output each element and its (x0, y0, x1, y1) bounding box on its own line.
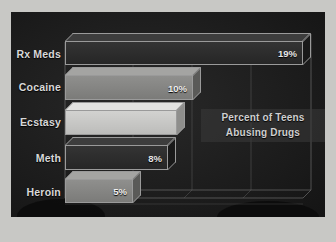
image-frame: Rx Meds Cocaine Ecstasy Meth Heroin 19% … (0, 0, 336, 242)
cat-label-meth: Meth (11, 152, 61, 164)
bar-top-face (65, 137, 176, 145)
bar-cocaine[interactable]: 10% (65, 75, 193, 100)
cat-label-cocaine: Cocaine (11, 81, 61, 93)
plot-area: Rx Meds Cocaine Ecstasy Meth Heroin 19% … (11, 12, 325, 217)
cat-label-heroin: Heroin (11, 186, 61, 198)
bar-value-label: 5% (113, 186, 127, 197)
chart-panel: Rx Meds Cocaine Ecstasy Meth Heroin 19% … (11, 12, 325, 217)
chart-title-line-2: Abusing Drugs (207, 126, 319, 141)
bar-front-face: 8% (65, 145, 168, 170)
bar-front-face: 10% (65, 75, 193, 100)
cat-label-rx-meds: Rx Meds (11, 48, 61, 60)
bar-front-face (65, 110, 177, 135)
bar-top-face (65, 102, 185, 110)
bar-rx-meds[interactable]: 19% (65, 41, 303, 65)
bar-ecstasy[interactable] (65, 110, 177, 135)
chart-title: Percent of Teens Abusing Drugs (201, 109, 325, 142)
bar-value-label: 8% (148, 152, 162, 163)
bar-value-label: 10% (168, 82, 187, 93)
chart-title-line-1: Percent of Teens (207, 111, 319, 126)
bar-front-face: 5% (65, 179, 133, 203)
bar-top-face (65, 33, 311, 41)
bar-top-face (65, 67, 201, 75)
bar-front-face: 19% (65, 41, 303, 65)
bar-meth[interactable]: 8% (65, 145, 168, 170)
bar-heroin[interactable]: 5% (65, 179, 133, 203)
bar-value-label: 19% (278, 48, 297, 59)
cat-label-ecstasy: Ecstasy (11, 116, 61, 128)
bar-top-face (65, 171, 141, 179)
